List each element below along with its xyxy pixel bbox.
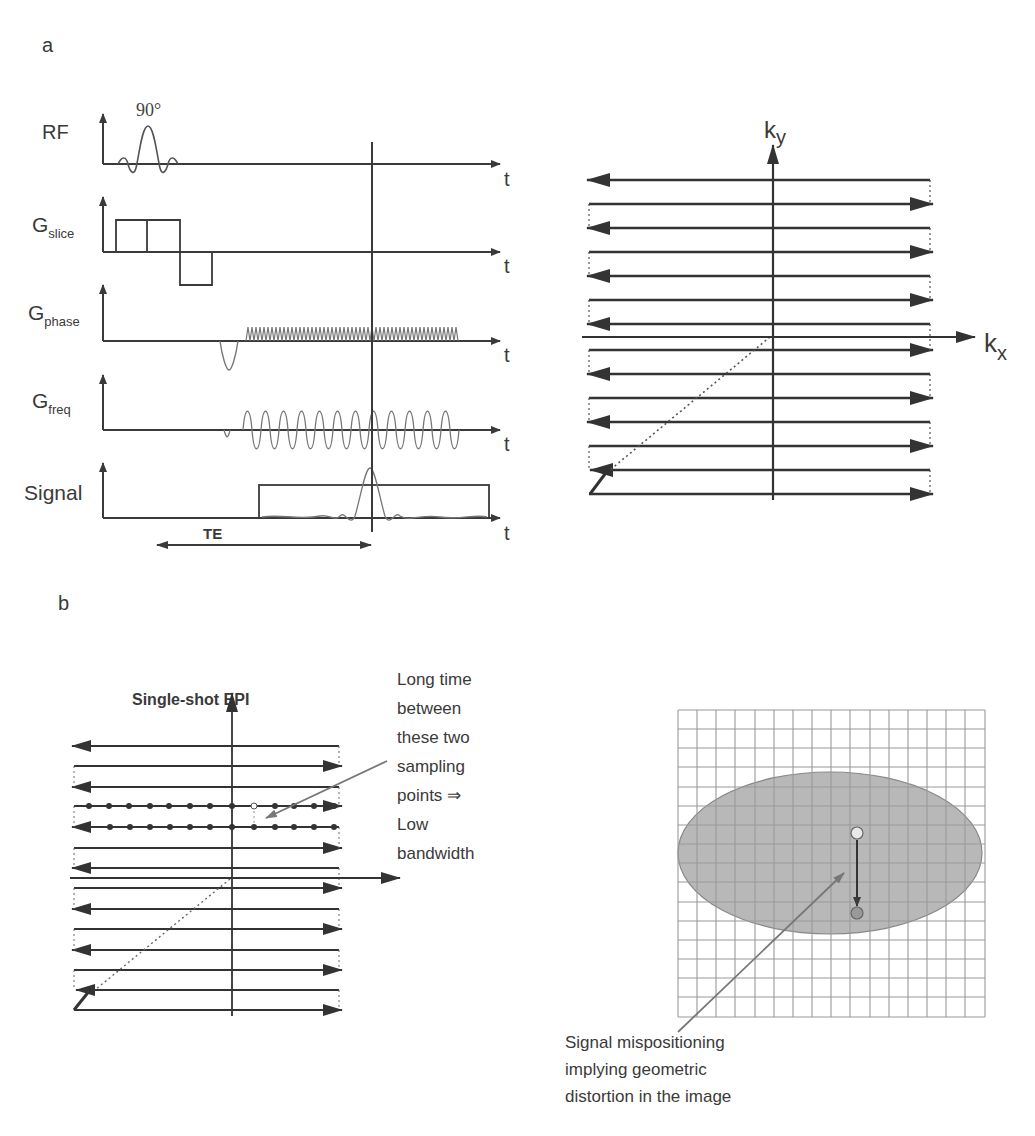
gslice-label: Gslice xyxy=(32,213,74,241)
svg-text:between: between xyxy=(397,699,461,718)
svg-text:points ⇒: points ⇒ xyxy=(397,786,461,805)
displaced-position-marker xyxy=(851,907,863,919)
kspace-trajectory-b xyxy=(70,693,400,1016)
svg-text:t: t xyxy=(504,522,510,544)
ky-label: ky xyxy=(764,116,786,148)
gfreq-label: Gfreq xyxy=(32,389,71,417)
gphase-label: Gphase xyxy=(28,301,80,329)
distortion-annotation: Signal mispositioning implying geometric… xyxy=(565,1033,731,1106)
object-ellipse xyxy=(678,772,982,934)
svg-text:implying geometric: implying geometric xyxy=(565,1060,707,1079)
figure-canvas: a RF 90° Gslice Gphase Gfr xyxy=(0,0,1035,1136)
svg-text:bandwidth: bandwidth xyxy=(397,844,475,863)
phase-blips xyxy=(246,327,458,341)
pulse-sequence-diagram xyxy=(103,114,500,545)
time-axis-labels: t t t t t xyxy=(504,168,510,544)
true-position-marker xyxy=(851,827,863,839)
kspace-trajectory-a xyxy=(582,145,975,500)
image-grid xyxy=(678,710,985,1017)
svg-text:t: t xyxy=(504,168,510,190)
svg-text:these two: these two xyxy=(397,728,470,747)
svg-text:t: t xyxy=(504,344,510,366)
kx-label: kx xyxy=(984,328,1007,364)
svg-text:Signal mispositioning: Signal mispositioning xyxy=(565,1033,725,1052)
panel-b-label: b xyxy=(58,592,69,614)
svg-text:t: t xyxy=(504,433,510,455)
bandwidth-pointer-arrow xyxy=(266,761,387,818)
svg-text:sampling: sampling xyxy=(397,757,465,776)
sampling-points xyxy=(86,803,337,830)
signal-label: Signal xyxy=(24,481,82,504)
flip-angle-label: 90° xyxy=(136,100,161,120)
svg-text:Long time: Long time xyxy=(397,670,472,689)
panel-a-label: a xyxy=(42,34,54,56)
bandwidth-annotation: Long time between these two sampling poi… xyxy=(397,670,475,863)
rf-label: RF xyxy=(42,121,69,143)
svg-text:t: t xyxy=(504,255,510,277)
te-label: TE xyxy=(203,525,222,542)
svg-text:distortion in the image: distortion in the image xyxy=(565,1087,731,1106)
svg-text:Low: Low xyxy=(397,815,429,834)
